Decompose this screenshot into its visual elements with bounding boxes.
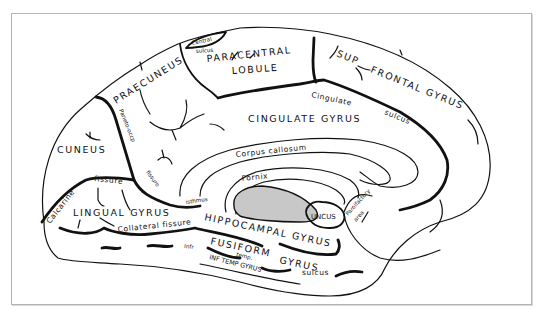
label-cingulate-sulcus: Cingulate (311, 90, 353, 107)
label-calcarine-fissure: fissure (94, 174, 124, 186)
label-sup: SUP (335, 48, 361, 67)
surface-notch (400, 50, 402, 55)
label-calcarine: Calcarine (44, 188, 76, 226)
label-inf-temp-sulcus: sulcus (302, 268, 329, 277)
minor-sulcus (98, 188, 104, 206)
label-paracentral: PARACENTRAL (206, 44, 292, 64)
label-praecuneus: PRAECUNEUS (111, 54, 185, 106)
corpus-callosum-outline (200, 152, 390, 196)
minor-sulcus (210, 124, 224, 130)
label-isthmus: isthmus (185, 196, 208, 205)
minor-sulcus (140, 90, 150, 114)
minor-sulcus (468, 120, 478, 144)
inf-temp-sulcus-segment (102, 247, 120, 248)
marginal-ramus (313, 38, 316, 82)
label-infr: Infr (184, 243, 195, 250)
anterior-sulcus (430, 200, 442, 232)
shaded-region-thalamus (234, 186, 318, 222)
label-lingual-gyrus: LINGUAL GYRUS (73, 207, 170, 218)
minor-sulcus (100, 218, 114, 226)
inf-temp-sulcus-segment (262, 268, 290, 271)
inf-temp-sulcus-segment (148, 245, 172, 246)
minor-sulcus (78, 220, 80, 228)
inf-temp-sulcus-segment (336, 271, 362, 276)
label-lobule: LOBULE (231, 62, 278, 76)
label-fornix: Fornix (241, 171, 268, 183)
minor-sulcus (86, 132, 100, 140)
brain-medial-surface-diagram: Central sulcus PARACENTRAL LOBULE PRAECU… (0, 0, 537, 314)
label-uncus: UNCUS (311, 213, 336, 221)
label-parieto-occipital-fissure: fissure (145, 169, 161, 188)
label-cuneus: CUNEUS (57, 144, 106, 155)
minor-sulcus (150, 100, 204, 140)
parieto-occipital-fissure (96, 97, 200, 207)
minor-sulcus (358, 66, 370, 70)
minor-sulcus (158, 150, 172, 164)
minor-sulcus (356, 68, 362, 80)
label-cingulate-gyrus: CINGULATE GYRUS (248, 113, 361, 124)
